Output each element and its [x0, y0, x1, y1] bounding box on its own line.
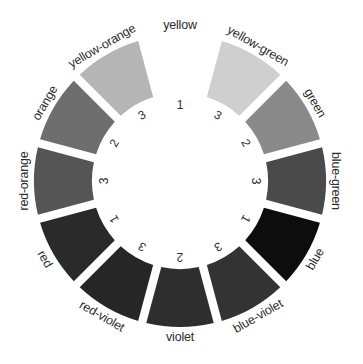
segment-number-orange: 2 — [106, 136, 122, 149]
segment-number-red-orange: 3 — [97, 177, 111, 184]
segment-number-red: 1 — [106, 212, 122, 225]
segment-number-blue: 1 — [238, 213, 254, 226]
segment-label-yellow: yellow — [163, 18, 198, 32]
segment-violet — [146, 267, 213, 327]
segment-red-orange — [34, 147, 94, 214]
segment-number-blue-green: 3 — [249, 178, 263, 185]
segment-number-green: 2 — [238, 137, 254, 150]
wheel-numbers: 132313231323 — [97, 98, 263, 264]
segment-blue-green — [266, 147, 326, 214]
segment-label-violet: violet — [166, 330, 195, 344]
segment-number-yellow-orange: 3 — [136, 107, 149, 123]
segment-label-blue-green: blue-green — [329, 152, 343, 210]
segment-number-red-violet: 3 — [135, 239, 148, 255]
segment-number-blue-violet: 3 — [211, 239, 224, 255]
segment-number-yellow: 1 — [177, 98, 184, 112]
segment-number-yellow-green: 3 — [212, 107, 225, 123]
segment-label-red-orange: red-orange — [17, 151, 31, 210]
color-wheel: 132313231323 yellowyellow-greengreenblue… — [0, 0, 363, 364]
wheel-segments — [34, 41, 326, 327]
segment-number-violet: 2 — [176, 250, 183, 264]
